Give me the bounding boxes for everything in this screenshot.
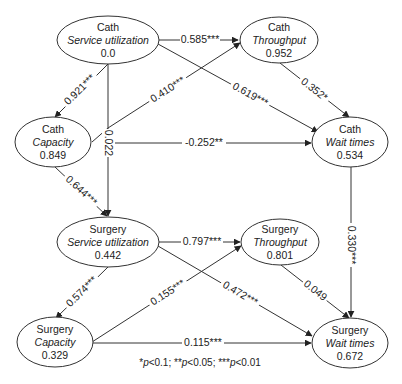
svg-text:Capacity: Capacity <box>33 136 75 148</box>
svg-text:0.442: 0.442 <box>95 249 121 261</box>
node-surgery-throughput: Surgery Throughput 0.801 <box>241 219 319 265</box>
svg-text:Surgery: Surgery <box>90 223 128 235</box>
svg-text:0.672: 0.672 <box>337 350 363 362</box>
node-cath-capacity: Cath Capacity 0.849 <box>15 117 91 167</box>
svg-text:Surgery: Surgery <box>262 223 300 235</box>
svg-text:Cath: Cath <box>268 21 290 33</box>
svg-text:0.0: 0.0 <box>101 47 116 59</box>
svg-text:Throughput: Throughput <box>253 236 308 248</box>
svg-text:0.849: 0.849 <box>40 149 66 161</box>
edge-cath-service-to-cath-throughput: 0.585*** <box>159 33 238 46</box>
svg-text:Cath: Cath <box>339 123 361 135</box>
node-surgery-capacity: Surgery Capacity 0.329 <box>17 317 93 367</box>
svg-text:Wait times: Wait times <box>326 136 376 148</box>
edge-label: -0.252** <box>185 136 223 148</box>
svg-text:0.801: 0.801 <box>267 249 293 261</box>
edge-surgery-service-to-surgery-throughput: 0.797*** <box>159 235 240 248</box>
svg-text:Cath: Cath <box>42 123 64 135</box>
svg-text:Wait times: Wait times <box>326 337 376 349</box>
node-surgery-wait-times: Surgery Wait times 0.672 <box>312 318 388 368</box>
svg-text:Surgery: Surgery <box>37 323 75 335</box>
svg-text:0.952: 0.952 <box>266 47 292 59</box>
svg-text:0.534: 0.534 <box>337 149 363 161</box>
node-cath-service-utilization: Cath Service utilization 0.0 <box>57 16 159 64</box>
edge-surgery-service-to-surgery-capacity: 0.574*** <box>56 267 108 318</box>
edge-label: 0.330*** <box>346 226 358 265</box>
edge-cath-wait-to-surgery-wait: 0.330*** <box>345 167 358 317</box>
edge-cath-service-to-surgery-service: 0.022 <box>102 64 115 216</box>
node-cath-throughput: Cath Throughput 0.952 <box>240 17 318 63</box>
edge-cath-capacity-to-surgery-service: 0.644*** <box>55 167 107 216</box>
edge-cath-throughput-to-cath-wait: 0.352* <box>280 63 349 117</box>
svg-text:Surgery: Surgery <box>332 324 370 336</box>
svg-text:Service utilization: Service utilization <box>67 34 149 46</box>
edge-label: 0.797*** <box>183 235 222 247</box>
node-surgery-service-utilization: Surgery Service utilization 0.442 <box>57 217 159 267</box>
node-cath-wait-times: Cath Wait times 0.534 <box>312 117 388 167</box>
path-diagram: 0.585*** 0.619*** 0.410*** 0.921*** 0.02… <box>0 0 402 384</box>
edge-label: 0.644*** <box>64 173 100 208</box>
svg-text:Capacity: Capacity <box>35 336 77 348</box>
edge-surgery-throughput-to-surgery-wait: 0.049 <box>281 265 349 318</box>
edge-surgery-capacity-to-surgery-wait: 0.115*** <box>93 336 311 349</box>
svg-text:0.329: 0.329 <box>42 349 68 361</box>
edge-label: 0.574*** <box>63 273 99 309</box>
svg-text:Throughput: Throughput <box>252 34 307 46</box>
svg-text:Service utilization: Service utilization <box>67 236 149 248</box>
edge-label: 0.585*** <box>181 33 220 45</box>
edge-cath-capacity-to-cath-wait: -0.252** <box>115 136 311 149</box>
edge-label: 0.921*** <box>61 71 97 107</box>
edge-label: 0.410*** <box>148 73 187 104</box>
edge-label: 0.022 <box>103 130 115 156</box>
significance-footnote: *p<0.1; **p<0.05; ***p<0.01 <box>139 357 261 368</box>
edge-label: 0.155*** <box>148 276 187 307</box>
edge-cath-service-to-cath-capacity: 0.921*** <box>55 64 108 117</box>
edge-label: 0.115*** <box>184 336 222 348</box>
svg-text:Cath: Cath <box>97 21 119 33</box>
